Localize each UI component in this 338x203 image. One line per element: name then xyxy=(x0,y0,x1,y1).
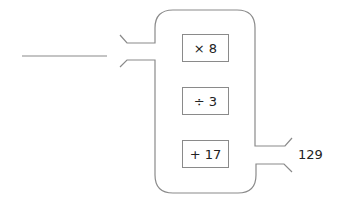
operation-label: ÷ 3 xyxy=(194,94,217,109)
function-machine-diagram xyxy=(0,0,338,203)
output-value: 129 xyxy=(298,147,323,162)
operation-label: × 8 xyxy=(194,41,217,56)
operation-box-1: × 8 xyxy=(182,34,229,62)
operation-box-3: + 17 xyxy=(182,140,229,168)
operation-box-2: ÷ 3 xyxy=(182,87,229,115)
operation-label: + 17 xyxy=(190,147,222,162)
